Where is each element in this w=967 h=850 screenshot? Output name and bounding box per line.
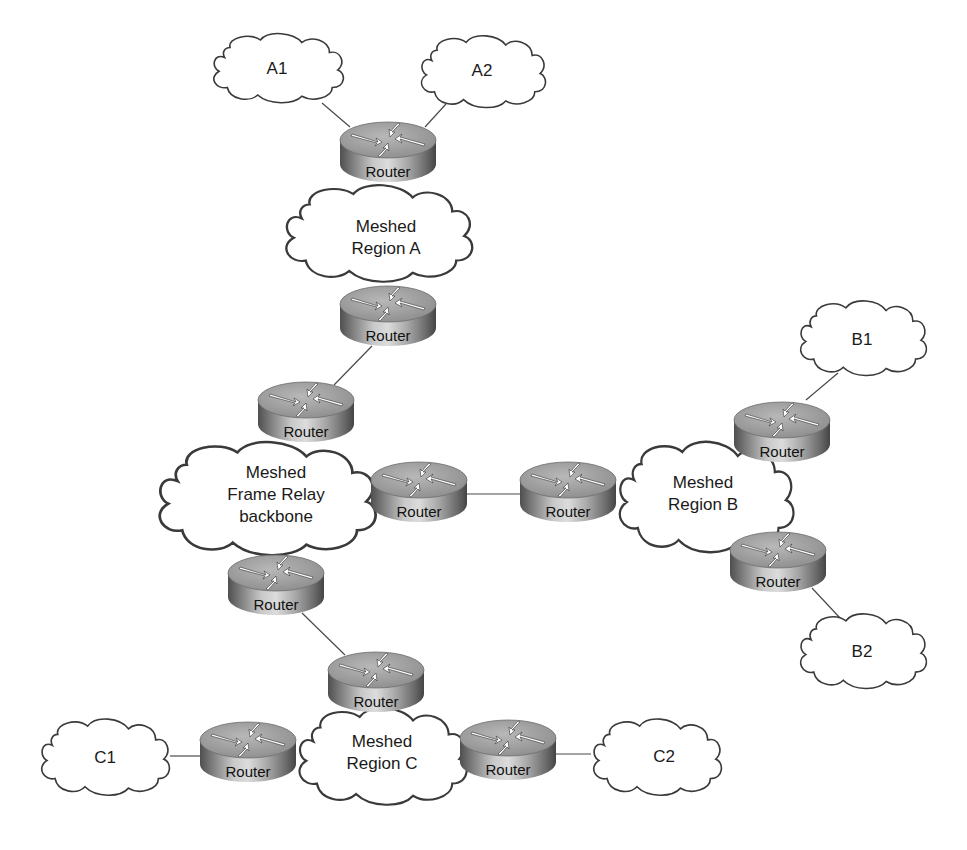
router-a-bottom: Router <box>340 286 436 346</box>
router-a-top: Router <box>340 122 436 182</box>
cloud-c1: C1 <box>42 719 170 795</box>
region-b-label-line1: Meshed <box>673 473 733 492</box>
network-diagram: A1 A2 Meshed Region A Meshed Frame Relay… <box>0 0 967 850</box>
link-b-bottom-to-b2 <box>812 588 840 618</box>
router-b-left: Router <box>520 462 616 522</box>
backbone-label-line3: backbone <box>239 507 313 526</box>
router-label: Router <box>365 163 410 180</box>
cloud-backbone: Meshed Frame Relay backbone <box>160 442 376 555</box>
cloud-region-a: Meshed Region A <box>286 185 472 282</box>
region-c-label-line2: Region C <box>347 754 418 773</box>
cloud-region-c: Meshed Region C <box>300 708 467 805</box>
backbone-label-line2: Frame Relay <box>227 485 325 504</box>
router-label: Router <box>755 573 800 590</box>
link-router-a-bottom-to-bb-top <box>334 346 372 385</box>
router-label: Router <box>283 423 328 440</box>
cloud-b1-label: B1 <box>852 330 873 349</box>
router-label: Router <box>365 327 410 344</box>
link-a2-router <box>425 104 446 127</box>
region-b-label-line2: Region B <box>668 495 738 514</box>
cloud-b2-label: B2 <box>852 642 873 661</box>
cloud-a1: A1 <box>214 34 344 103</box>
cloud-a2-label: A2 <box>472 61 493 80</box>
router-label: Router <box>353 693 398 710</box>
cloud-c2: C2 <box>594 719 722 795</box>
router-label: Router <box>253 596 298 613</box>
cloud-b1: B1 <box>801 301 927 376</box>
router-label: Router <box>225 763 270 780</box>
cloud-b2: B2 <box>801 614 927 689</box>
link-b-top-to-b1 <box>806 373 838 400</box>
cloud-a2: A2 <box>422 36 546 108</box>
router-label: Router <box>485 761 530 778</box>
router-label: Router <box>396 503 441 520</box>
region-c-label-line1: Meshed <box>352 732 412 751</box>
cloud-a1-label: A1 <box>267 59 288 78</box>
router-label: Router <box>545 503 590 520</box>
link-bb-bottom-to-c-top <box>302 613 345 655</box>
router-c-left: Router <box>200 722 296 782</box>
router-label: Router <box>759 443 804 460</box>
link-a1-router <box>322 103 350 127</box>
router-backbone-top: Router <box>258 382 354 442</box>
router-b-top: Router <box>734 402 830 462</box>
router-c-right: Router <box>460 720 556 780</box>
backbone-label-line1: Meshed <box>246 463 306 482</box>
router-c-top: Router <box>328 652 424 712</box>
cloud-c1-label: C1 <box>94 748 116 767</box>
router-backbone-bottom: Router <box>228 555 324 615</box>
router-b-bottom: Router <box>730 532 826 592</box>
cloud-c2-label: C2 <box>653 747 675 766</box>
region-a-label-line1: Meshed <box>356 217 416 236</box>
region-a-label-line2: Region A <box>352 239 422 258</box>
router-backbone-right: Router <box>371 462 467 522</box>
